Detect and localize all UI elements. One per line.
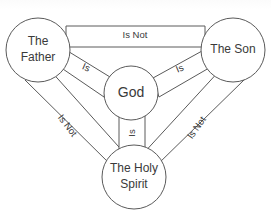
- trinity-diagram-canvas: The Father The Son God The Holy Spirit I…: [0, 0, 271, 215]
- trinity-diagram-svg: The Father The Son God The Holy Spirit I…: [0, 0, 271, 215]
- node-label-father-line2: Father: [21, 50, 56, 64]
- node-label-spirit-line2: Spirit: [120, 177, 148, 191]
- node-label-spirit-line1: The Holy: [110, 161, 158, 175]
- edge-label-spirit-god: Is: [126, 129, 137, 137]
- edge-label-father-son: Is Not: [123, 29, 148, 40]
- node-label-god: God: [118, 84, 144, 100]
- edge-son-god-is: [153, 51, 209, 97]
- node-label-father-line1: The: [28, 34, 49, 48]
- node-label-son: The Son: [210, 42, 255, 56]
